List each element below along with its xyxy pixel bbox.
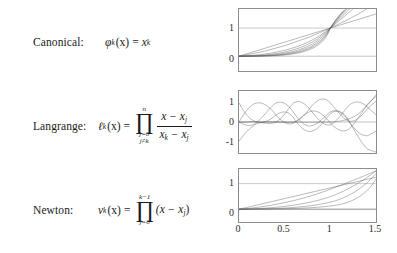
label-canonical: Canonical:: [33, 36, 84, 48]
curve-v4: [239, 174, 376, 210]
plot-canonical-basis: [238, 8, 377, 72]
curve-l0: [239, 103, 376, 152]
lagrange-fn-subscript: k: [103, 122, 106, 131]
product-glyph-lagrange: ∏: [135, 113, 153, 131]
lagrange-denominator: xk − xj: [157, 126, 192, 142]
ytick-lagrange-0: 0: [229, 116, 234, 127]
ytick-lagrange-neg1: -1: [226, 136, 234, 147]
product-operator-newton: k−1 ∏ j=0: [135, 194, 153, 226]
xtick-0p5: 0.5: [277, 223, 290, 234]
curve-x6: [239, 9, 347, 56]
label-newton: Newton:: [33, 204, 73, 216]
curve-x4: [239, 9, 354, 56]
curve-x1: [239, 14, 376, 56]
xtick-1p5: 1.5: [369, 223, 382, 234]
lagrange-fraction: x − xj xk − xj: [157, 110, 192, 142]
plot-column: 1 0: [215, 0, 397, 253]
canonical-rhs-exponent: k: [147, 38, 150, 47]
newton-argument: (x): [107, 204, 120, 216]
newton-tail: (x − xj): [156, 203, 190, 217]
ytick-canonical-1: 1: [229, 22, 234, 33]
canonical-svg: [239, 9, 376, 71]
curve-x5: [239, 9, 350, 56]
newton-fn-subscript: k: [103, 206, 106, 215]
lagrange-limit-bottom-line2: j≠k: [140, 137, 149, 145]
lagrange-equals: =: [124, 120, 131, 132]
lagrange-argument: (x): [107, 120, 120, 132]
curve-l4: [239, 99, 376, 122]
xtick-1: 1: [327, 223, 332, 234]
curve-x7: [239, 10, 344, 56]
lagrange-curves: [239, 95, 376, 152]
product-glyph-newton: ∏: [135, 201, 153, 219]
label-lagrange: Langrange:: [33, 120, 86, 132]
newton-equals: =: [124, 204, 131, 216]
newton-curves: [239, 171, 376, 209]
newton-tail-close: ): [185, 203, 189, 215]
curve-v2: [239, 171, 376, 209]
formula-newton: νk(x) = k−1 ∏ j=0 (x − xj): [98, 194, 189, 226]
newton-svg: [239, 169, 376, 222]
row-newton: Newton: νk(x) = k−1 ∏ j=0 (x − xj): [0, 168, 215, 252]
ytick-newton-1: 1: [229, 177, 234, 188]
curve-l2: [239, 102, 376, 136]
formula-column: Canonical: φk(x) = xk Langrange: ℓk(x) =…: [0, 0, 215, 253]
formula-canonical: φk(x) = xk: [105, 36, 150, 48]
newton-limit-bottom: j=0: [140, 219, 150, 226]
lagrange-limit-bottom: j=0 j≠k: [139, 131, 149, 146]
lagrange-numerator-text: x − x: [161, 110, 185, 122]
basis-functions-figure: Canonical: φk(x) = xk Langrange: ℓk(x) =…: [0, 0, 397, 253]
lagrange-denominator-mid: − x: [168, 128, 187, 140]
formula-lagrange: ℓk(x) = n ∏ j=0 j≠k x − xj xk − xj: [98, 106, 193, 146]
curve-v3: [239, 171, 376, 209]
product-operator-lagrange: n ∏ j=0 j≠k: [135, 106, 153, 146]
plot-newton-basis: [238, 168, 377, 223]
lagrange-numerator: x − xj: [158, 110, 190, 125]
canonical-curves: [239, 9, 376, 56]
canonical-equals: =: [132, 36, 139, 48]
lagrange-numerator-subscript: j: [185, 115, 187, 124]
ytick-canonical-0: 0: [229, 53, 234, 64]
lagrange-denominator-sub-j: j: [187, 133, 189, 142]
xtick-0: 0: [236, 223, 241, 234]
curve-v1: [239, 177, 376, 209]
canonical-fn-subscript: k: [111, 38, 114, 47]
lagrange-svg: [239, 91, 376, 153]
newton-tail-open: (x − x: [156, 203, 184, 215]
ytick-newton-0: 0: [229, 207, 234, 218]
curve-l5: [239, 95, 376, 142]
x-axis-ticks: 0 0.5 1 1.5: [238, 223, 375, 239]
ytick-lagrange-1: 1: [229, 96, 234, 107]
row-lagrange: Langrange: ℓk(x) = n ∏ j=0 j≠k x − xj xk…: [0, 84, 215, 168]
canonical-argument: (x): [116, 36, 129, 48]
row-canonical: Canonical: φk(x) = xk: [0, 0, 215, 84]
plot-lagrange-basis: [238, 90, 377, 154]
